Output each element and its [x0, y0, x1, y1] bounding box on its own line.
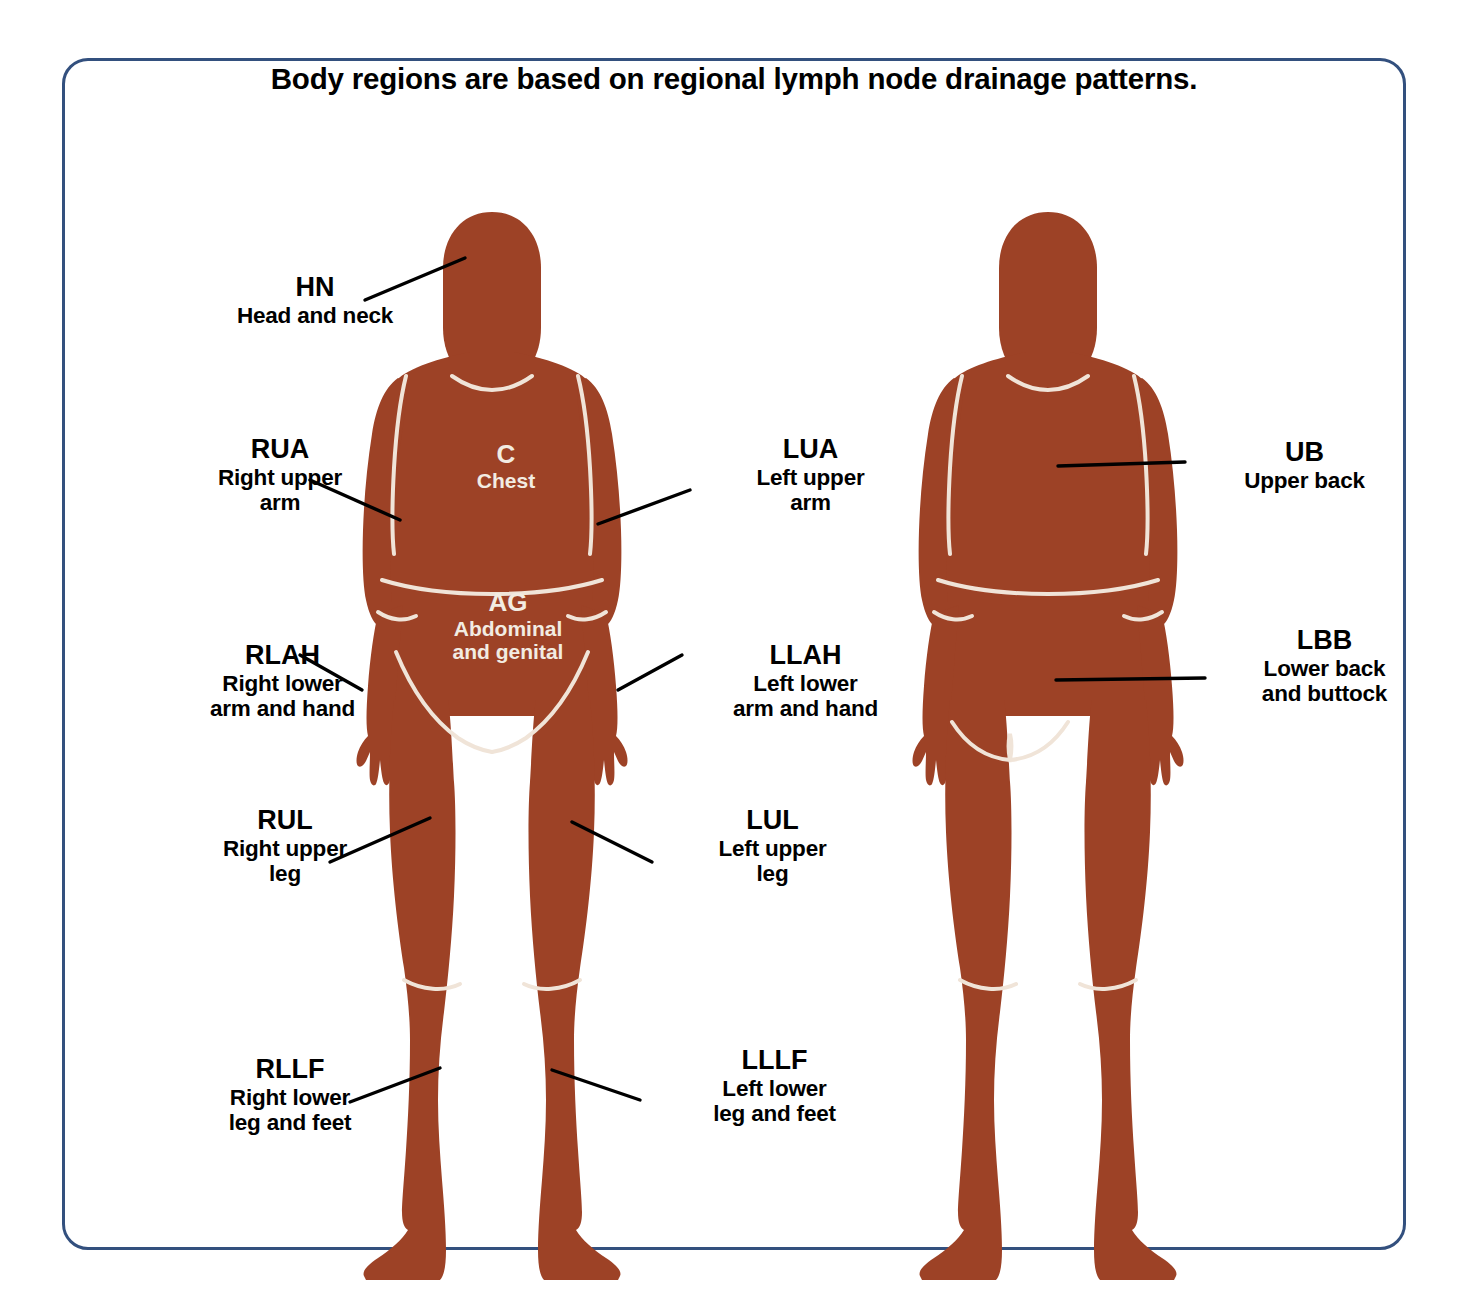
region-desc-llah-line2: arm and hand [683, 696, 928, 721]
region-desc-rlah-line2: arm and hand [160, 696, 405, 721]
region-label-right-upper-leg: RUL Right upper leg [170, 805, 400, 887]
region-desc-rllf-line2: leg and feet [165, 1110, 415, 1135]
region-label-chest: C Chest [420, 440, 592, 492]
region-code-rua: RUA [165, 434, 395, 464]
leader-line-lbb [1056, 678, 1205, 680]
region-code-lbb: LBB [1217, 625, 1432, 655]
region-code-ag: AG [408, 588, 608, 617]
region-desc-lbb-line1: Lower back [1217, 656, 1432, 681]
region-desc-lbb-line2: and buttock [1217, 681, 1432, 706]
region-code-c: C [420, 440, 592, 469]
region-code-rlah: RLAH [160, 640, 405, 670]
region-desc-lul-line1: Left upper [665, 836, 880, 861]
region-desc-lua-line1: Left upper [703, 465, 918, 490]
region-label-right-lower-leg-feet: RLLF Right lower leg and feet [165, 1054, 415, 1136]
region-desc-hn-line1: Head and neck [200, 303, 430, 328]
region-desc-rua-line2: arm [165, 490, 395, 515]
region-code-lllf: LLLF [652, 1045, 897, 1075]
region-code-rul: RUL [170, 805, 400, 835]
region-desc-rlah-line1: Right lower [160, 671, 405, 696]
region-desc-ub-line1: Upper back [1197, 468, 1412, 493]
region-desc-lllf-line1: Left lower [652, 1076, 897, 1101]
region-code-llah: LLAH [683, 640, 928, 670]
region-desc-ag-line1: Abdominal [408, 617, 608, 640]
region-desc-llah-line1: Left lower [683, 671, 928, 696]
region-desc-rul-line2: leg [170, 861, 400, 886]
region-desc-c: Chest [420, 469, 592, 492]
region-desc-lllf-line2: leg and feet [652, 1101, 897, 1126]
region-label-left-upper-arm: LUA Left upper arm [703, 434, 918, 516]
back-pelvis-shape [933, 580, 1163, 716]
region-label-abdominal-genital: AG Abdominal and genital [408, 588, 608, 663]
region-label-right-upper-arm: RUA Right upper arm [165, 434, 395, 516]
region-code-ub: UB [1197, 437, 1412, 467]
region-label-head-neck: HN Head and neck [200, 272, 430, 328]
region-label-left-lower-leg-feet: LLLF Left lower leg and feet [652, 1045, 897, 1127]
region-desc-lua-line2: arm [703, 490, 918, 515]
region-label-left-upper-leg: LUL Left upper leg [665, 805, 880, 887]
leader-line-llah [618, 655, 682, 690]
region-label-upper-back: UB Upper back [1197, 437, 1412, 493]
region-desc-ag-line2: and genital [408, 640, 608, 663]
region-label-left-lower-arm-hand: LLAH Left lower arm and hand [683, 640, 928, 722]
region-code-hn: HN [200, 272, 430, 302]
region-label-right-lower-arm-hand: RLAH Right lower arm and hand [160, 640, 405, 722]
region-desc-rua-line1: Right upper [165, 465, 395, 490]
back-torso-shape [927, 352, 1170, 588]
region-label-lower-back-buttock: LBB Lower back and buttock [1217, 625, 1432, 707]
region-code-lua: LUA [703, 434, 918, 464]
region-code-lul: LUL [665, 805, 880, 835]
posterior-figure [913, 212, 1184, 1280]
region-desc-lul-line2: leg [665, 861, 880, 886]
region-code-rllf: RLLF [165, 1054, 415, 1084]
region-desc-rul-line1: Right upper [170, 836, 400, 861]
region-desc-rllf-line1: Right lower [165, 1085, 415, 1110]
